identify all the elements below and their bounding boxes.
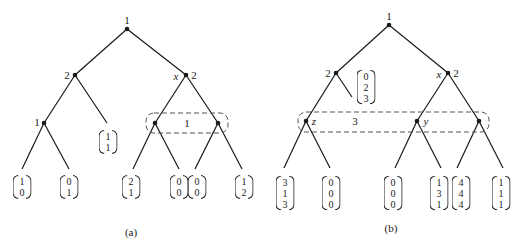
node-player-label: 1 [124, 15, 130, 26]
node-name-label: x [174, 71, 179, 82]
caption-b: (b) [385, 222, 398, 234]
payoff-vector: 444 [452, 176, 471, 211]
payoff-vector: 313 [276, 176, 295, 211]
node-player-label: 2 [325, 68, 331, 79]
payoff-vector: 01 [60, 175, 79, 199]
payoff-vector: 00 [170, 175, 189, 199]
node-name-label: z [312, 116, 316, 127]
payoff-vector: 11 [99, 130, 118, 154]
node-player-label: 2 [64, 70, 70, 81]
node-name-label: y [424, 116, 429, 127]
payoff-vector: 131 [430, 176, 449, 211]
info-set-label: 3 [352, 116, 358, 127]
node-player-label: 2 [191, 70, 197, 81]
payoff-vector: 023 [357, 70, 376, 105]
payoff-vector: 00 [188, 175, 207, 199]
information-set-b [298, 112, 489, 132]
payoff-vector: 12 [235, 175, 254, 199]
node-name-label: x [437, 69, 442, 80]
payoff-vector: 21 [122, 175, 141, 199]
node-player-label: 2 [453, 68, 459, 79]
info-set-label: 1 [184, 118, 190, 129]
node-player-label: 1 [386, 11, 392, 22]
node-player-label: 1 [34, 117, 40, 128]
payoff-vector: 10 [13, 175, 32, 199]
caption-a: (a) [125, 226, 137, 238]
payoff-vector: 000 [322, 176, 341, 211]
payoff-vector: 111 [492, 176, 511, 211]
payoff-vector: 000 [384, 176, 403, 211]
